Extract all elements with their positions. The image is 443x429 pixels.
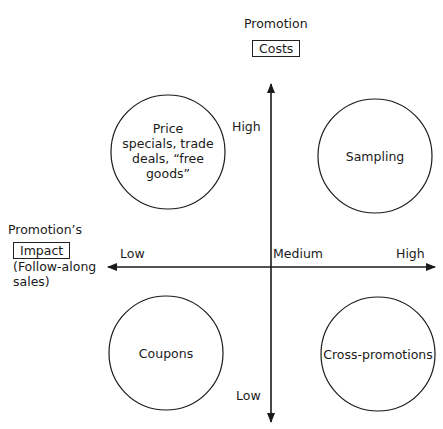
top-label-promotion: Promotion bbox=[244, 16, 308, 31]
vertical-low-label: Low bbox=[236, 388, 261, 403]
price-line-3: deals, “free bbox=[111, 151, 225, 166]
left-label-impact-box: Impact bbox=[13, 242, 70, 259]
horizontal-high-label: High bbox=[396, 246, 425, 261]
left-label-sales: sales) bbox=[13, 274, 50, 289]
price-line-4: goods” bbox=[111, 166, 225, 181]
top-label-costs-box: Costs bbox=[252, 40, 300, 57]
horizontal-low-label: Low bbox=[120, 246, 145, 261]
horizontal-medium-label: Medium bbox=[273, 246, 323, 261]
left-label-follow-along: (Follow-along bbox=[13, 259, 96, 274]
left-label-promotions: Promotion’s bbox=[8, 222, 82, 237]
quadrant-top-right-text: Sampling bbox=[318, 149, 432, 164]
quadrant-bottom-left-text: Coupons bbox=[109, 346, 223, 361]
quadrant-top-left-text: Price specials, trade deals, “free goods… bbox=[111, 121, 225, 181]
price-line-2: specials, trade bbox=[111, 136, 225, 151]
vertical-high-label: High bbox=[232, 119, 261, 134]
price-line-1: Price bbox=[111, 121, 225, 136]
quadrant-bottom-right-text: Cross-promotions bbox=[318, 347, 438, 362]
diagram-canvas bbox=[0, 0, 443, 429]
